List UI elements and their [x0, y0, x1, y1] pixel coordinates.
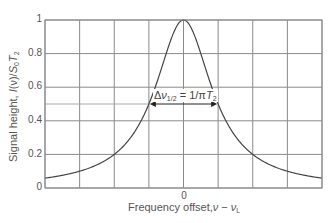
y-tick-1: 1: [18, 13, 42, 24]
annot-eq: = 1/π: [177, 89, 206, 101]
annot-T-sub: 2: [213, 95, 217, 102]
annot-T: T: [206, 89, 213, 101]
y-axis-label-nu: (ν)/: [7, 73, 19, 89]
y-axis-label-text: Signal height,: [7, 92, 19, 162]
fwhm-annotation: Δν1/2 = 1/πT2: [153, 89, 218, 102]
lorentzian-chart: [0, 0, 332, 223]
x-axis-label-sub: L: [236, 207, 240, 214]
x-tick-0: 0: [174, 190, 194, 201]
y-tick-0.8: 0.8: [18, 47, 42, 58]
x-axis-label-minus: −: [218, 201, 231, 213]
annot-sub: 1/2: [167, 95, 177, 102]
y-axis-label-T: T: [7, 55, 19, 62]
x-axis-label-text: Frequency offset,: [128, 201, 213, 213]
y-axis-label-I: I: [7, 89, 19, 92]
y-tick-0.6: 0.6: [18, 80, 42, 91]
y-axis-label-T-sub: 2: [13, 51, 20, 55]
y-axis-label-S: S: [7, 66, 19, 73]
y-tick-0.4: 0.4: [18, 114, 42, 125]
y-tick-0: 0: [18, 181, 42, 192]
x-axis-label: Frequency offset,ν − νL: [128, 201, 240, 214]
y-axis-label: Signal height, I(ν)/S0T2: [7, 51, 20, 162]
y-tick-0.2: 0.2: [18, 148, 42, 159]
y-axis-label-S-sub: 0: [13, 62, 20, 66]
